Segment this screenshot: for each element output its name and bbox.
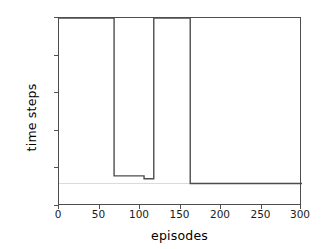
- chart-figure: time steps 100 80 60 40 20 0 0 50 100 15…: [0, 0, 325, 249]
- x-tick-label-0: 0: [38, 208, 78, 220]
- x-tick-label-250: 250: [241, 208, 281, 220]
- series-canvas: [59, 18, 302, 206]
- x-tick-label-150: 150: [160, 208, 200, 220]
- x-axis-label: episodes: [58, 228, 301, 243]
- y-axis-label: time steps: [24, 53, 39, 183]
- x-tick-label-200: 200: [200, 208, 240, 220]
- data-series-line: [59, 18, 302, 183]
- x-tick-label-50: 50: [79, 208, 119, 220]
- plot-area: [58, 17, 301, 205]
- x-tick-label-100: 100: [119, 208, 159, 220]
- x-tick-label-300: 300: [280, 208, 320, 220]
